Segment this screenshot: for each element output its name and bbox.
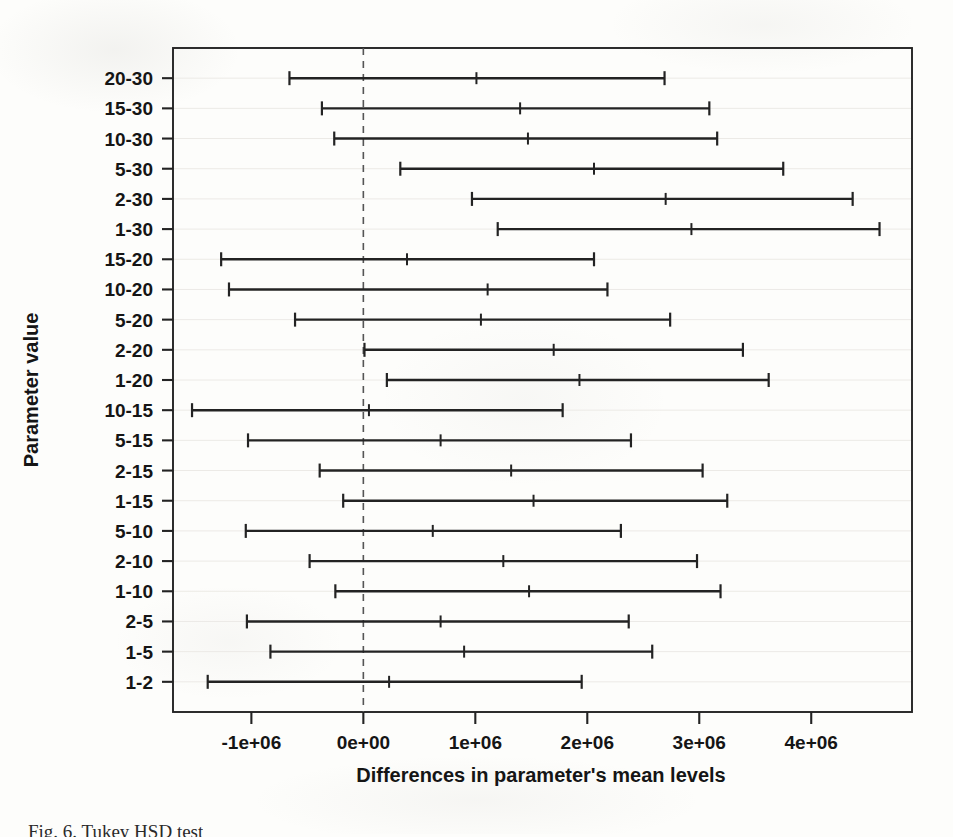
x-tick-label-1: 0e+00 <box>337 732 390 753</box>
confidence-interval-15-20 <box>221 252 594 266</box>
x-axis-ticks <box>251 712 811 724</box>
confidence-interval-1-2 <box>208 675 582 689</box>
x-axis-title: Differences in parameter's mean levels <box>356 764 725 786</box>
confidence-interval-1-15 <box>343 494 727 508</box>
confidence-interval-1-10 <box>335 584 720 598</box>
confidence-interval-1-20 <box>387 373 769 387</box>
y-tick-label-2-5: 2-5 <box>126 611 154 632</box>
confidence-interval-5-30 <box>400 162 783 176</box>
x-tick-label-0: -1e+06 <box>222 732 282 753</box>
x-tick-label-2: 1e+06 <box>449 732 502 753</box>
y-tick-label-15-30: 15-30 <box>104 98 153 119</box>
y-tick-label-5-20: 5-20 <box>115 310 153 331</box>
y-tick-label-2-20: 2-20 <box>115 340 153 361</box>
confidence-interval-2-30 <box>472 192 853 206</box>
y-tick-label-10-15: 10-15 <box>104 400 153 421</box>
y-tick-label-2-30: 2-30 <box>115 189 153 210</box>
x-axis-tick-labels: -1e+060e+001e+062e+063e+064e+06 <box>222 732 838 753</box>
y-axis-tick-labels: 20-3015-3010-305-302-301-3015-2010-205-2… <box>104 68 153 693</box>
plot-canvas: 20-3015-3010-305-302-301-3015-2010-205-2… <box>0 0 953 800</box>
confidence-interval-5-15 <box>248 433 631 447</box>
y-tick-label-10-20: 10-20 <box>104 279 153 300</box>
confidence-interval-2-20 <box>364 343 742 357</box>
figure-caption: Fig. 6. Tukey HSD test <box>28 821 203 837</box>
y-tick-label-1-5: 1-5 <box>126 642 154 663</box>
y-tick-label-1-30: 1-30 <box>115 219 153 240</box>
x-tick-label-3: 2e+06 <box>561 732 614 753</box>
x-tick-label-4: 3e+06 <box>673 732 726 753</box>
y-tick-label-1-2: 1-2 <box>126 672 153 693</box>
confidence-interval-2-5 <box>247 614 629 628</box>
confidence-interval-5-10 <box>246 524 621 538</box>
y-tick-label-20-30: 20-30 <box>104 68 153 89</box>
x-tick-label-5: 4e+06 <box>785 732 838 753</box>
confidence-interval-10-30 <box>334 132 717 146</box>
confidence-interval-2-15 <box>320 464 703 478</box>
confidence-interval-1-5 <box>270 645 652 659</box>
y-tick-label-15-20: 15-20 <box>104 249 153 270</box>
y-tick-label-1-20: 1-20 <box>115 370 153 391</box>
y-tick-label-1-15: 1-15 <box>115 491 153 512</box>
y-axis-title: Parameter value <box>20 313 42 468</box>
confidence-interval-15-30 <box>322 101 709 115</box>
y-tick-label-1-10: 1-10 <box>115 581 153 602</box>
confidence-interval-1-30 <box>498 222 880 236</box>
y-tick-label-10-30: 10-30 <box>104 129 153 150</box>
y-tick-label-2-15: 2-15 <box>115 461 153 482</box>
y-tick-label-5-15: 5-15 <box>115 430 153 451</box>
y-tick-label-5-10: 5-10 <box>115 521 153 542</box>
confidence-interval-10-20 <box>229 282 607 296</box>
y-tick-label-2-10: 2-10 <box>115 551 153 572</box>
confidence-interval-5-20 <box>295 313 670 327</box>
confidence-interval-10-15 <box>192 403 563 417</box>
y-tick-label-5-30: 5-30 <box>115 159 153 180</box>
confidence-interval-2-10 <box>310 554 697 568</box>
confidence-interval-20-30 <box>289 71 664 85</box>
y-axis-ticks <box>162 78 173 682</box>
